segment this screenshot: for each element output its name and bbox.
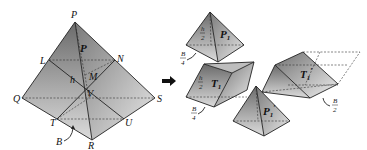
T1prime-base-num: B bbox=[333, 97, 338, 105]
label-h: h bbox=[70, 74, 75, 85]
label-B: B bbox=[56, 136, 62, 147]
P1-height-den: 2 bbox=[201, 34, 205, 42]
pyramid-decomposition-diagram: P P L N M h V Q S T U R B P1 h 2 B 4 T1 … bbox=[0, 0, 367, 150]
label-N: N bbox=[116, 53, 125, 64]
T1-height-num: h bbox=[199, 74, 203, 82]
P1-height-num: h bbox=[201, 25, 205, 33]
T1-height-den: 2 bbox=[199, 83, 203, 91]
label-P-apex: P bbox=[70, 9, 77, 20]
T1-base-den: 4 bbox=[192, 114, 196, 122]
P1-base-num: B bbox=[181, 50, 186, 58]
label-Q: Q bbox=[13, 93, 21, 104]
label-S: S bbox=[157, 93, 162, 104]
label-U: U bbox=[125, 117, 133, 128]
label-P-face: P bbox=[80, 42, 87, 54]
label-R: R bbox=[87, 140, 94, 150]
base-pointer-arrow bbox=[64, 128, 73, 141]
right-arrow-icon bbox=[162, 76, 176, 86]
P1-base-den: 4 bbox=[181, 59, 185, 67]
T1prime-base-den: 2 bbox=[333, 106, 337, 114]
T1-base-num: B bbox=[192, 105, 197, 113]
label-L: L bbox=[39, 55, 46, 66]
label-M: M bbox=[88, 71, 98, 82]
